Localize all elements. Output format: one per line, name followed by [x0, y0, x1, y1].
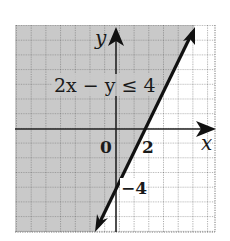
y-tick-label-neg4: −4	[121, 178, 147, 198]
inequality-label: 2x − y ≤ 4	[54, 74, 156, 96]
x-axis-label: x	[201, 131, 212, 155]
inequality-graph: 2x − y ≤ 4 y x 0 2 −4	[0, 0, 230, 241]
x-tick-label-2: 2	[142, 137, 154, 157]
y-axis-label: y	[94, 26, 107, 50]
origin-label: 0	[100, 137, 112, 157]
